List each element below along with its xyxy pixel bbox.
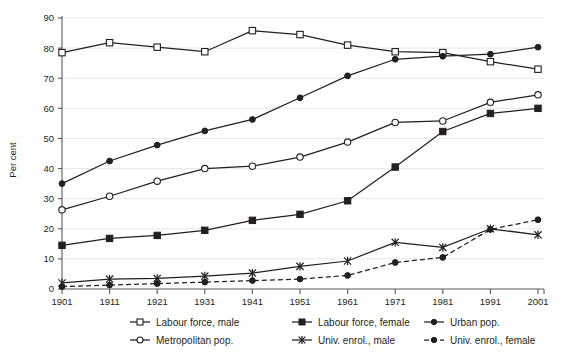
data-point <box>59 49 65 55</box>
data-point <box>137 337 143 343</box>
data-point <box>59 284 65 290</box>
x-tick-label: 1961 <box>337 296 358 307</box>
legend-label: Metropolitan pop. <box>156 335 233 346</box>
x-tick-label: 1941 <box>242 296 263 307</box>
data-point <box>297 276 303 282</box>
y-tick-label: 0 <box>49 283 54 294</box>
data-point <box>137 319 143 325</box>
series-4 <box>59 92 541 213</box>
data-point <box>106 193 112 199</box>
data-point <box>202 165 208 171</box>
data-point <box>535 105 541 111</box>
data-point <box>202 128 208 134</box>
data-point <box>440 254 446 260</box>
data-point <box>344 198 350 204</box>
legend-item-6: Univ. enrol., female <box>424 335 536 346</box>
data-point <box>431 337 436 342</box>
y-tick-label: 80 <box>43 43 54 54</box>
data-point <box>250 278 256 284</box>
series-line <box>62 95 538 210</box>
series-line <box>62 47 538 183</box>
data-point <box>249 217 255 223</box>
x-tick-label: 2001 <box>527 296 548 307</box>
legend-item-2: Labour force, female <box>292 317 410 328</box>
data-point <box>344 42 350 48</box>
data-point <box>488 226 494 232</box>
data-point <box>392 164 398 170</box>
data-point <box>249 163 255 169</box>
data-point <box>250 117 256 123</box>
data-point <box>106 235 112 241</box>
data-point <box>154 232 160 238</box>
x-axis-ticks: 1901191119211931194119511961197119811991… <box>51 289 548 307</box>
data-point <box>107 282 113 288</box>
data-point <box>440 128 446 134</box>
series-2 <box>59 105 541 248</box>
data-point <box>297 154 303 160</box>
y-tick-label: 10 <box>43 253 54 264</box>
x-tick-label: 1991 <box>480 296 501 307</box>
legend-label: Labour force, female <box>318 317 410 328</box>
data-point <box>535 217 541 223</box>
y-tick-label: 90 <box>43 12 54 23</box>
x-tick-label: 1971 <box>385 296 406 307</box>
data-point <box>487 58 493 64</box>
series-line <box>62 108 538 245</box>
data-point <box>59 207 65 213</box>
series-layer <box>58 27 541 289</box>
data-point <box>535 92 541 98</box>
y-tick-label: 60 <box>43 103 54 114</box>
legend-item-3: Urban pop. <box>424 317 499 328</box>
x-tick-label: 1901 <box>51 296 72 307</box>
data-point <box>345 273 351 279</box>
data-point <box>154 44 160 50</box>
data-point <box>535 66 541 72</box>
x-tick-label: 1951 <box>289 296 310 307</box>
data-point <box>299 319 305 325</box>
data-point <box>345 73 351 79</box>
data-point <box>392 119 398 125</box>
series-1 <box>59 27 541 72</box>
data-point <box>487 99 493 105</box>
chart-container: 0102030405060708090 19011911192119311941… <box>0 0 576 356</box>
y-tick-label: 30 <box>43 193 54 204</box>
data-point <box>344 139 350 145</box>
legend-item-1: Labour force, male <box>130 317 240 328</box>
gridlines <box>62 18 544 259</box>
data-point <box>202 49 208 55</box>
data-point <box>392 49 398 55</box>
data-point <box>249 27 255 33</box>
data-point <box>297 95 303 101</box>
data-point <box>297 211 303 217</box>
data-point <box>535 44 541 50</box>
data-point <box>154 178 160 184</box>
legend-label: Urban pop. <box>450 317 499 328</box>
x-tick-label: 1931 <box>194 296 215 307</box>
legend-label: Univ. enrol., female <box>450 335 536 346</box>
y-axis-title: Per cent <box>7 142 18 178</box>
legend-label: Labour force, male <box>156 317 240 328</box>
data-point <box>392 260 398 266</box>
chart-legend: Labour force, maleLabour force, femaleUr… <box>130 317 536 346</box>
data-point <box>59 242 65 248</box>
data-point <box>107 158 113 164</box>
data-point <box>202 279 208 285</box>
data-point <box>392 56 398 62</box>
x-tick-label: 1911 <box>99 296 119 307</box>
data-point <box>297 31 303 37</box>
legend-item-5: Univ. enrol., male <box>292 335 396 346</box>
data-point <box>106 39 112 45</box>
legend-item-4: Metropolitan pop. <box>130 335 233 346</box>
data-point <box>488 51 494 57</box>
legend-label: Univ. enrol., male <box>318 335 396 346</box>
y-tick-label: 20 <box>43 223 54 234</box>
data-point <box>59 181 65 187</box>
data-point <box>154 142 160 148</box>
x-tick-label: 1921 <box>147 296 168 307</box>
x-tick-label: 1981 <box>432 296 453 307</box>
series-3 <box>59 44 541 186</box>
y-tick-label: 40 <box>43 163 54 174</box>
data-point <box>154 281 160 287</box>
y-tick-label: 70 <box>43 73 54 84</box>
y-tick-label: 50 <box>43 133 54 144</box>
